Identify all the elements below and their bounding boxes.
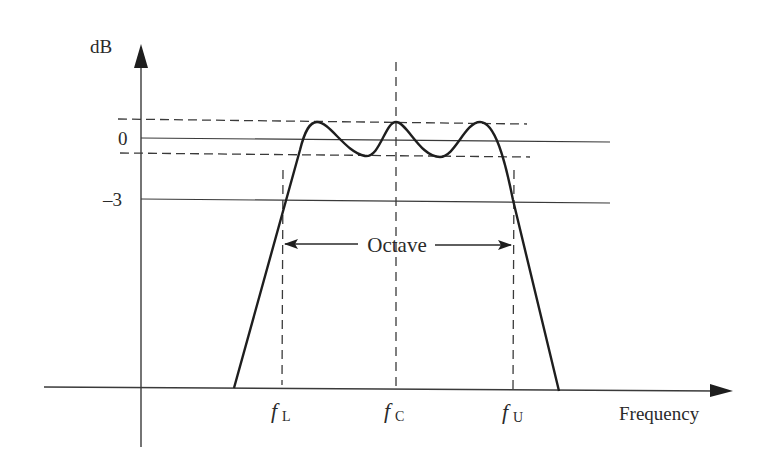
filter-response-diagram: dB 0 –3 Octave Frequency f L f C f U <box>0 0 777 467</box>
svg-text:L: L <box>282 409 291 424</box>
svg-text:f: f <box>271 398 280 423</box>
fL-dashed-marker <box>282 170 283 385</box>
minus-3db-label: –3 <box>102 189 122 210</box>
y-axis-label: dB <box>90 36 112 57</box>
zero-db-line <box>141 138 610 142</box>
fL-label: f L <box>271 398 291 424</box>
x-axis <box>44 384 733 397</box>
fC-label: f C <box>384 398 404 424</box>
svg-text:f: f <box>502 399 511 424</box>
zero-db-label: 0 <box>118 128 128 149</box>
x-axis-label: Frequency <box>619 403 700 424</box>
fU-label: f U <box>502 399 523 425</box>
y-axis-arrow-icon <box>134 44 148 68</box>
svg-text:C: C <box>395 409 404 424</box>
minus-3db-line <box>141 199 610 203</box>
x-axis-arrow-icon <box>710 384 733 397</box>
svg-text:f: f <box>384 398 393 423</box>
octave-label: Octave <box>367 233 426 257</box>
lower-ripple-dashed-line <box>120 153 530 157</box>
y-axis <box>134 44 148 447</box>
svg-text:U: U <box>513 410 523 425</box>
